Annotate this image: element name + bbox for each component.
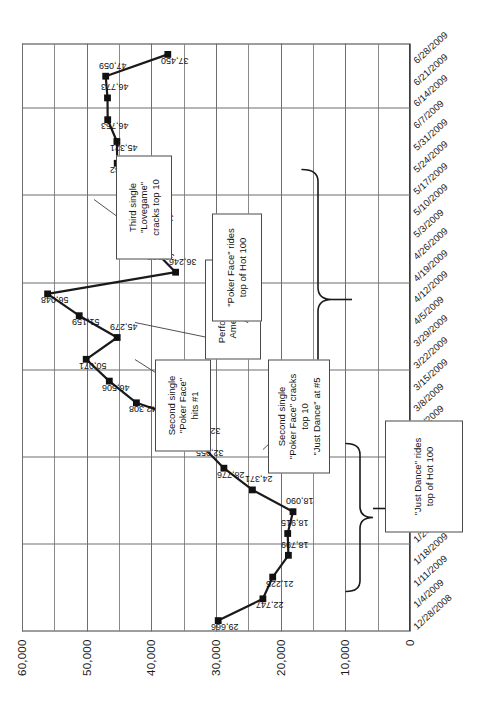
note-line: "Lovegame" <box>138 179 150 236</box>
note-just-dance-hot100: "Just Dance" rides top of Hot 100 <box>385 420 463 532</box>
data-point-label: 45,321 <box>110 142 138 152</box>
x-axis: 12/28/20081/4/20091/11/20091/18/20091/25… <box>411 43 483 631</box>
note-line: top 10 <box>299 373 311 458</box>
data-point <box>172 268 179 275</box>
data-point-label: 18,090 <box>286 495 314 505</box>
data-point <box>102 72 109 79</box>
chart-canvas: Sales in units 010,00020,00030,00040,000… <box>0 0 484 717</box>
y-axis-tick-label: 40,000 <box>145 639 157 675</box>
data-point-label: 50,071 <box>79 360 107 370</box>
data-point <box>284 530 291 537</box>
note-line: "Just Dance" rides <box>412 437 424 515</box>
note-poker-face-number-one: Second single "Poker Face" hits #1 <box>155 359 211 451</box>
data-point-label: 24,371 <box>245 473 273 483</box>
data-point-label: 42,308 <box>129 403 157 413</box>
data-point-label: 37,450 <box>161 55 189 65</box>
note-line: "Poker Face" cracks <box>287 373 299 458</box>
data-point-label: 22,747 <box>256 599 284 609</box>
data-point-label: 18,915 <box>281 517 309 527</box>
note-line: top of Hot 100 <box>237 228 249 307</box>
note-line: "Poker Face" rides <box>225 228 237 307</box>
note-line: Third single <box>127 179 139 236</box>
data-point-label: 56,048 <box>41 294 69 304</box>
data-point-label: 45,279 <box>110 321 138 331</box>
data-point-label: 18,799 <box>281 539 309 549</box>
data-point-label: 28,776 <box>217 469 245 479</box>
data-point-label: 46,506 <box>102 382 130 392</box>
y-axis-tick-label: 10,000 <box>339 639 351 675</box>
note-lovegame-top10: Third single "Lovegame" cracks top 10 <box>116 155 172 259</box>
data-point <box>290 508 297 515</box>
data-point-label: 47,059 <box>99 60 127 70</box>
y-axis-tick-label: 60,000 <box>16 639 28 675</box>
y-axis: Sales in units 010,00020,00030,00040,000… <box>0 633 432 717</box>
data-point-label: 51,159 <box>72 316 100 326</box>
y-axis-tick-label: 20,000 <box>275 639 287 675</box>
note-line: "Poker Face" <box>177 375 189 435</box>
data-point-label: 46,773 <box>101 81 129 91</box>
data-point-label: 29,666 <box>211 621 239 631</box>
y-axis-tick-label: 0 <box>404 639 416 646</box>
data-point <box>104 94 111 101</box>
note-line: "Just Dance" at #5 <box>311 373 323 458</box>
note-line: Second single <box>166 375 178 435</box>
sales-line-chart: Sales in units 010,00020,00030,00040,000… <box>0 0 484 717</box>
data-point-label: 46,753 <box>101 120 129 130</box>
note-poker-face-top10: Second single "Poker Face" cracks top 10… <box>268 359 330 473</box>
y-axis-tick-label: 30,000 <box>210 639 222 675</box>
y-axis-tick-label: 50,000 <box>81 639 93 675</box>
note-line: top of Hot 100 <box>424 437 436 515</box>
note-line: hits #1 <box>189 375 201 435</box>
note-line: Second single <box>276 373 288 458</box>
data-point <box>114 334 121 341</box>
note-line: cracks top 10 <box>150 179 162 236</box>
data-point-label: 21,225 <box>266 578 294 588</box>
note-poker-face-hot100: "Poker Face" rides top of Hot 100 <box>212 213 262 321</box>
data-point <box>285 551 292 558</box>
data-point <box>249 486 256 493</box>
